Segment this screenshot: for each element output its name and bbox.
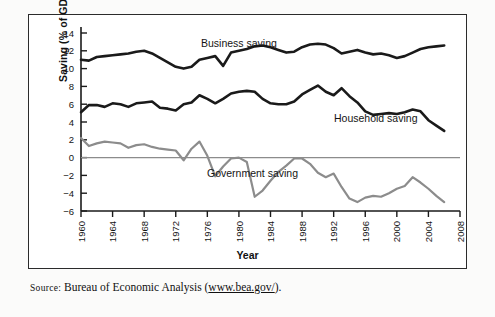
x-tick-label: 1976	[202, 221, 213, 242]
x-tick-label: 2000	[391, 221, 402, 242]
series-label-government: Government saving	[207, 167, 298, 179]
x-tick-label: 1980	[234, 221, 245, 242]
series-label-business: Business saving	[201, 37, 277, 49]
y-tick-label: 14	[63, 28, 74, 39]
saving-line-chart: −6−4−20246810121419601964196819721976198…	[29, 15, 468, 270]
x-tick-label: 1960	[76, 221, 87, 242]
x-tick-label: 1972	[170, 221, 181, 242]
x-tick-label: 1984	[265, 221, 276, 242]
x-tick-label: 1964	[107, 221, 118, 242]
source-prefix: Source:	[30, 283, 61, 293]
figure-root: −6−4−20246810121419601964196819721976198…	[0, 0, 495, 317]
x-tick-label: 1988	[297, 221, 308, 242]
source-link[interactable]: www.bea.gov/	[208, 281, 274, 293]
x-tick-label: 1968	[139, 221, 150, 242]
x-tick-label: 2008	[455, 221, 466, 242]
source-text: Bureau of Economic Analysis (	[64, 281, 208, 293]
x-tick-label: 1992	[328, 221, 339, 242]
x-axis-label: Year	[29, 249, 466, 261]
source-note: Source: Bureau of Economic Analysis (www…	[30, 281, 281, 293]
source-suffix: ).	[275, 281, 282, 293]
plot-area: −6−4−20246810121419601964196819721976198…	[29, 15, 468, 270]
series-label-household: Household saving	[334, 112, 417, 124]
series-line-household	[81, 86, 444, 131]
x-tick-label: 2004	[423, 221, 434, 242]
y-axis-label-wrap: Saving (% of GDP)	[63, 43, 77, 223]
chart-frame: −6−4−20246810121419601964196819721976198…	[28, 14, 467, 269]
x-tick-label: 1996	[360, 221, 371, 242]
